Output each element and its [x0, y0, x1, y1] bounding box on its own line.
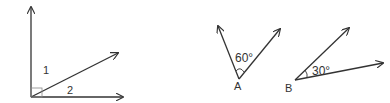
- angle-B-arc: [305, 70, 307, 78]
- vertex-A-label: A: [234, 80, 242, 92]
- angle-B-figure: 30° B: [285, 28, 383, 94]
- angle-A-arc: [236, 69, 244, 72]
- angle-B-value: 30°: [312, 64, 330, 78]
- angle-1-label: 1: [43, 64, 49, 76]
- angle-A-figure: 60° A: [218, 26, 280, 92]
- right-angle-figure: 1 2: [31, 7, 123, 97]
- angle-2-label: 2: [67, 84, 73, 96]
- angle-A-value: 60°: [235, 51, 253, 65]
- vertex-B-label: B: [285, 82, 292, 94]
- angles-diagram: 1 2 60° A 30° B: [0, 0, 390, 103]
- angle-B-lower-ray: [295, 63, 383, 80]
